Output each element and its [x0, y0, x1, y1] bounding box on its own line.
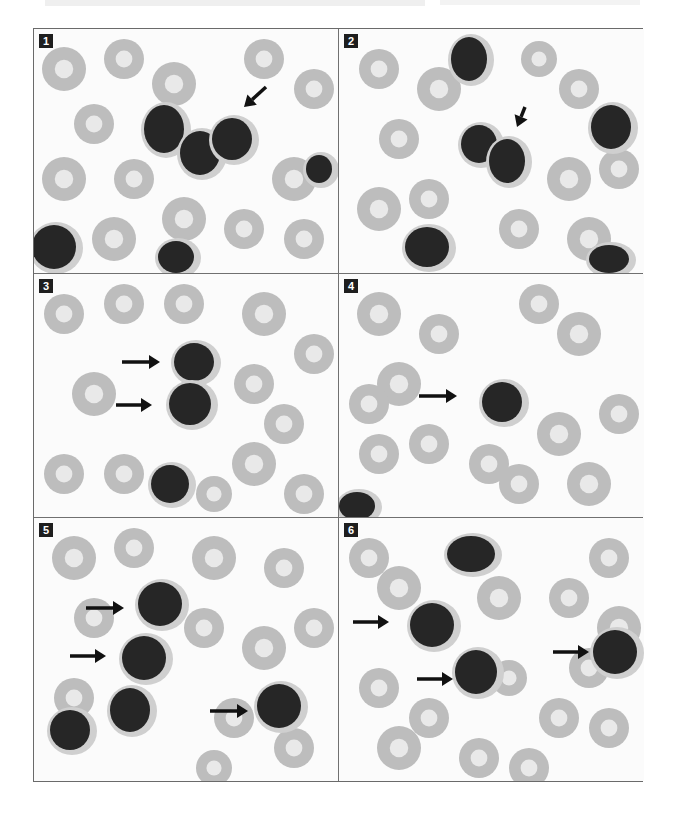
red-blood-cell: [294, 69, 334, 109]
red-blood-cell: [44, 294, 84, 334]
panel-1: 1: [34, 29, 338, 273]
red-blood-cell: [549, 578, 589, 618]
red-blood-cell: [469, 444, 509, 484]
lymphocyte: [590, 627, 644, 679]
red-blood-cell: [104, 39, 144, 79]
red-blood-cell: [232, 442, 276, 486]
red-blood-cell: [42, 157, 86, 201]
arrow-icon: [244, 87, 266, 107]
horizontal-divider: [34, 273, 642, 274]
red-blood-cell: [214, 698, 254, 738]
arrow-icon: [417, 672, 453, 686]
lymphocyte: [107, 685, 157, 737]
vertical-divider: [338, 29, 339, 781]
caption-fragment: [45, 0, 425, 6]
arrow-icon: [116, 398, 152, 412]
red-blood-cell: [164, 284, 204, 324]
red-blood-cell: [224, 209, 264, 249]
red-blood-cell: [357, 187, 401, 231]
lymphocyte: [254, 681, 308, 733]
red-blood-cell: [499, 209, 539, 249]
micrograph-image: [34, 274, 338, 517]
red-blood-cell: [409, 179, 449, 219]
red-blood-cell: [409, 698, 449, 738]
lymphocyte: [339, 489, 382, 517]
arrow-icon: [353, 615, 389, 629]
red-blood-cell: [599, 394, 639, 434]
panel-label: 3: [39, 279, 53, 293]
panel-label: 5: [39, 523, 53, 537]
lymphocyte: [444, 533, 502, 577]
red-blood-cell: [264, 404, 304, 444]
lymphocyte: [479, 379, 529, 427]
red-blood-cell: [359, 49, 399, 89]
micrograph-image: [339, 274, 644, 517]
arrow-icon: [70, 649, 106, 663]
red-blood-cell: [377, 566, 421, 610]
lymphocyte: [47, 707, 97, 755]
lymphocyte: [155, 238, 201, 273]
micrograph-image: [339, 29, 644, 273]
red-blood-cell: [294, 608, 334, 648]
red-blood-cell: [567, 462, 611, 506]
red-blood-cell: [589, 538, 629, 578]
lymphocyte: [166, 380, 218, 430]
horizontal-divider: [34, 517, 642, 518]
red-blood-cell: [379, 119, 419, 159]
red-blood-cell: [349, 384, 389, 424]
arrow-icon: [122, 355, 160, 369]
red-blood-cell: [521, 41, 557, 77]
panel-label: 6: [344, 523, 358, 537]
panel-2: 2: [339, 29, 644, 273]
red-blood-cell: [196, 476, 232, 512]
panel-5: 5: [34, 518, 338, 781]
lymphocyte: [34, 222, 83, 273]
panel-4: 4: [339, 274, 644, 517]
red-blood-cell: [196, 750, 232, 781]
red-blood-cell: [294, 334, 334, 374]
red-blood-cell: [349, 538, 389, 578]
panel-label: 1: [39, 34, 53, 48]
caption-fragment: [440, 0, 640, 5]
red-blood-cell: [114, 528, 154, 568]
red-blood-cell: [242, 292, 286, 336]
red-blood-cell: [557, 312, 601, 356]
red-blood-cell: [459, 738, 499, 778]
micrograph-figure: 654321: [33, 28, 643, 782]
red-blood-cell: [409, 424, 449, 464]
red-blood-cell: [44, 454, 84, 494]
panel-label: 4: [344, 279, 358, 293]
lymphocyte: [148, 462, 196, 508]
red-blood-cell: [357, 292, 401, 336]
red-blood-cell: [72, 372, 116, 416]
red-blood-cell: [74, 598, 114, 638]
lymphocyte: [135, 579, 189, 631]
red-blood-cell: [477, 576, 521, 620]
lymphocyte: [303, 152, 338, 188]
micrograph-image: [34, 29, 338, 273]
red-blood-cell: [242, 626, 286, 670]
red-blood-cell: [274, 728, 314, 768]
red-blood-cell: [104, 284, 144, 324]
lymphocyte: [119, 633, 173, 685]
lymphocyte: [407, 600, 461, 652]
arrow-icon: [419, 389, 457, 403]
panel-6: 6: [339, 518, 644, 781]
lymphocyte: [452, 647, 504, 699]
lymphocyte: [588, 102, 638, 154]
red-blood-cell: [52, 536, 96, 580]
red-blood-cell: [377, 726, 421, 770]
lymphocyte: [209, 115, 259, 165]
red-blood-cell: [599, 149, 639, 189]
red-blood-cell: [264, 548, 304, 588]
red-blood-cell: [419, 314, 459, 354]
red-blood-cell: [42, 47, 86, 91]
red-blood-cell: [519, 284, 559, 324]
red-blood-cell: [192, 536, 236, 580]
red-blood-cell: [74, 104, 114, 144]
panel-3: 3: [34, 274, 338, 517]
lymphocyte: [171, 340, 221, 386]
red-blood-cell: [104, 454, 144, 494]
red-blood-cell: [284, 474, 324, 514]
lymphocyte: [402, 224, 456, 272]
